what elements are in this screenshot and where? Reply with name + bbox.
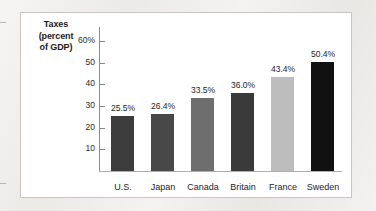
bar (151, 114, 174, 171)
bar-group: 25.5%U.S. (103, 40, 143, 171)
y-axis-tick: 50 (57, 63, 105, 64)
y-axis-tick: 20 (57, 128, 105, 129)
bar-group: 33.5%Canada (183, 40, 223, 171)
page-edge-mark-top (0, 22, 6, 23)
bar-value-label: 33.5% (183, 85, 223, 95)
chart-panel: Taxes (percent of GDP) 60%5040302010 25.… (20, 12, 352, 198)
y-axis-tick-label: 10 (86, 143, 95, 153)
bar (191, 98, 214, 171)
y-axis-tick: 60% (57, 41, 105, 42)
y-axis-tick: 30 (57, 106, 105, 107)
y-axis-tick-label: 20 (86, 122, 95, 132)
plot-area: Taxes (percent of GDP) 60%5040302010 25.… (21, 13, 353, 199)
bars-layer: 25.5%U.S.26.4%Japan33.5%Canada36.0%Brita… (99, 13, 342, 199)
y-axis-tick-label: 60% (78, 35, 95, 45)
bar-group: 50.4%Sweden (303, 40, 343, 171)
bar-value-label: 50.4% (303, 49, 343, 59)
bar (231, 93, 254, 171)
y-axis-title-line-1: Taxes (23, 19, 89, 31)
bar (111, 116, 134, 171)
y-axis-tick-label: 30 (86, 100, 95, 110)
y-axis-tick: 10 (57, 149, 105, 150)
bar-group: 36.0%Britain (223, 40, 263, 171)
x-axis-category-label: Sweden (300, 182, 346, 192)
bar-value-label: 36.0% (223, 80, 263, 90)
y-axis-tick-label: 50 (86, 57, 95, 67)
bar (311, 62, 334, 171)
bar-group: 26.4%Japan (143, 40, 183, 171)
bar-value-label: 26.4% (143, 101, 183, 111)
bar-value-label: 43.4% (263, 64, 303, 74)
bar (271, 77, 294, 171)
bar-group: 43.4%France (263, 40, 303, 171)
page-edge-mark-bottom (0, 183, 6, 184)
bar-value-label: 25.5% (103, 103, 143, 113)
y-axis-tick: 40 (57, 84, 105, 85)
y-axis-tick-label: 40 (86, 78, 95, 88)
page-root: Taxes (percent of GDP) 60%5040302010 25.… (0, 0, 376, 211)
